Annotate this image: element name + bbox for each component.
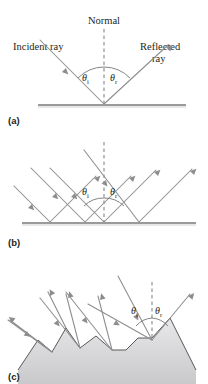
theta-r-arc [104, 67, 130, 78]
part-label-a: (a) [8, 115, 20, 126]
reflected-ray-line [85, 176, 131, 222]
incident-ray-arrowhead [28, 204, 36, 212]
reflected-ray-arrowhead [98, 293, 105, 300]
rough-surface-fill [18, 318, 196, 384]
reflected-ray-arrowhead [188, 291, 196, 299]
normal-label: Normal [88, 15, 120, 26]
incident-ray-group-b [14, 150, 139, 222]
panel-c-diffuse-reflection: θi θr (c) [0, 252, 208, 384]
theta-i-label: θi [82, 72, 89, 85]
incident-ray-arrowhead [113, 320, 121, 328]
incident-ray-label: Incident ray [13, 41, 64, 52]
reflection-figure: Normal Incident ray Reflected ray θi θr … [0, 0, 208, 384]
part-label-c: (c) [8, 371, 20, 382]
reflected-ray-line [139, 169, 192, 222]
reflected-ray-arrowhead [154, 168, 162, 176]
incident-ray-arrowhead [52, 193, 60, 201]
theta-i-label-b: θi [82, 186, 89, 199]
theta-r-label-c: θr [155, 305, 163, 318]
reflected-ray-label-line1: Reflected [140, 41, 181, 52]
theta-r-label: θr [110, 72, 118, 85]
reflected-ray-line [50, 176, 96, 222]
panel-a-law-of-reflection: Normal Incident ray Reflected ray θi θr … [0, 0, 208, 128]
panel-b-specular-reflection: θi θr (b) [0, 128, 208, 252]
reflected-ray-group-b [50, 167, 198, 222]
incident-ray-line [40, 40, 104, 104]
reflected-ray-arrowhead [190, 167, 198, 175]
reflected-ray-arrowhead [129, 174, 137, 182]
reflected-ray-line [8, 320, 52, 352]
reflected-ray-arrowhead [94, 174, 102, 182]
part-label-b: (b) [8, 237, 20, 248]
theta-r-label-b: θr [110, 186, 118, 199]
theta-i-label-c: θi [131, 305, 138, 318]
